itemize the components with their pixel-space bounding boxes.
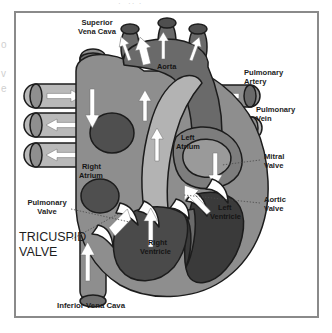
right-atrium-opening-lower (81, 179, 119, 213)
tricuspid-valve-label-line2: VALVE (19, 245, 86, 260)
aortic-valve-label-line2: Valve (264, 205, 286, 214)
aortic-valve-label: Aortic Valve (264, 196, 286, 213)
right-atrium-label-line2: Atrium (79, 171, 103, 180)
mitral-valve-label: Mitral Valve (264, 153, 284, 170)
tricuspid-valve-label: TRICUSPID VALVE (19, 230, 86, 260)
heart-diagram-page: · ·· · o v e (0, 0, 332, 333)
pulmonary-vein-label: Pulmonary Vein (256, 106, 295, 123)
aorta-label: Aorta (157, 62, 177, 71)
figure-frame: Right Atrium Left Atrium Right Ventricle… (14, 11, 319, 318)
pulmonary-valve-label: Pulmonary Valve (19, 199, 75, 216)
pulmonary-artery-label: Pulmonary Artery (244, 69, 283, 86)
left-ventricle-label-line1: Left (218, 203, 232, 212)
right-atrium-label-line1: Right (82, 162, 101, 171)
pulmonary-vein-label-line2: Vein (256, 115, 295, 124)
left-ventricle-label-line2: Ventricle (210, 212, 241, 221)
pulmonary-valve-label-line2: Valve (19, 208, 75, 217)
right-ventricle-label-line2: Ventricle (140, 247, 171, 256)
svc-label-line2: Vena Cava (78, 28, 116, 37)
left-atrium-label-line2: Atrium (176, 142, 200, 151)
mitral-valve-label-line2: Valve (264, 162, 284, 171)
heart-illustration: Right Atrium Left Atrium Right Ventricle… (16, 13, 317, 316)
right-ventricle-label-line1: Right (148, 238, 167, 247)
scan-bleed-top: · ·· · (118, 0, 142, 10)
tricuspid-valve-label-line1: TRICUSPID (19, 230, 86, 245)
scan-bleed-left: o v e (1, 38, 8, 96)
left-atrium-label-line1: Left (181, 133, 195, 142)
inferior-vena-cava-label: Inferior Vena Cava (57, 301, 125, 310)
pulmonary-artery-label-line2: Artery (244, 78, 283, 87)
superior-vena-cava-label: Superior Vena Cava (78, 19, 116, 36)
